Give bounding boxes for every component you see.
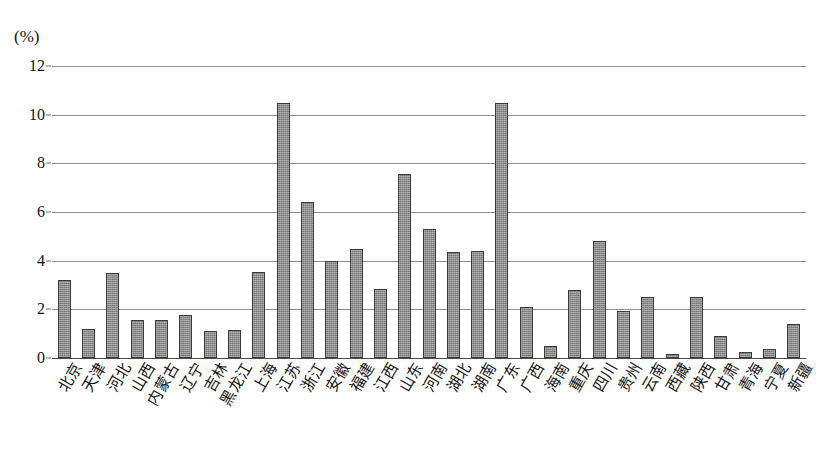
bar bbox=[155, 320, 168, 358]
x-axis-tick-label: 贵州 bbox=[615, 360, 645, 395]
x-axis-label-17: 湖南 bbox=[469, 360, 498, 395]
bar bbox=[520, 307, 533, 358]
y-axis-tick-label: 2 bbox=[37, 301, 45, 317]
x-axis-tick-label: 云南 bbox=[639, 360, 669, 395]
x-axis-label-9: 江苏 bbox=[275, 360, 304, 395]
x-axis-label-1: 天津 bbox=[80, 360, 109, 395]
x-axis-label-25: 西藏 bbox=[664, 360, 693, 395]
bar bbox=[666, 354, 679, 358]
x-axis-tick-label: 广东 bbox=[493, 360, 523, 395]
x-axis-label-11: 安徽 bbox=[323, 360, 352, 395]
x-axis-tick-label: 河南 bbox=[420, 360, 450, 395]
x-axis-label-8: 上海 bbox=[250, 360, 279, 395]
y-axis-tick-label: 6 bbox=[37, 204, 45, 220]
bar bbox=[787, 324, 800, 358]
x-axis-tick-label: 江西 bbox=[371, 360, 401, 395]
x-axis-label-29: 宁夏 bbox=[761, 360, 790, 395]
y-axis-tick-label: 4 bbox=[37, 253, 45, 269]
bar bbox=[131, 320, 144, 358]
bar bbox=[252, 272, 265, 358]
x-axis-label-23: 贵州 bbox=[615, 360, 644, 395]
x-axis-tick-label: 河北 bbox=[104, 360, 134, 395]
bar bbox=[350, 249, 363, 359]
x-axis-tick-label: 青海 bbox=[736, 360, 766, 395]
y-tick-mark-12 bbox=[46, 66, 51, 67]
x-axis-tick-label: 浙江 bbox=[299, 360, 329, 395]
plot-area: 024681012 bbox=[52, 66, 806, 358]
bar bbox=[277, 103, 290, 359]
x-axis-tick-label: 山东 bbox=[396, 360, 426, 395]
x-axis-tick-label: 安徽 bbox=[323, 360, 353, 395]
y-tick-mark-0 bbox=[46, 358, 51, 359]
x-axis-tick-label: 上海 bbox=[250, 360, 280, 395]
x-axis-tick-label: 陕西 bbox=[688, 360, 718, 395]
x-axis-label-15: 河南 bbox=[421, 360, 450, 395]
bar bbox=[423, 229, 436, 358]
x-axis-label-21: 重庆 bbox=[566, 360, 595, 395]
x-axis-tick-label: 西藏 bbox=[663, 360, 693, 395]
bar bbox=[82, 329, 95, 358]
bar bbox=[544, 346, 557, 358]
y-tick-mark-4 bbox=[46, 260, 51, 261]
bar-chart-figure: (%) 024681012 北京天津河北山西内蒙古辽宁吉林黑龙江上海江苏浙江安徽… bbox=[0, 0, 825, 456]
bar bbox=[106, 273, 119, 358]
x-axis-label-19: 广西 bbox=[518, 360, 547, 395]
bar bbox=[398, 174, 411, 358]
x-axis-label-30: 新疆 bbox=[785, 360, 814, 395]
y-tick-mark-6 bbox=[46, 212, 51, 213]
x-axis-tick-label: 重庆 bbox=[566, 360, 596, 395]
x-axis-label-27: 甘肃 bbox=[712, 360, 741, 395]
x-axis-tick-label: 湖南 bbox=[469, 360, 499, 395]
bar bbox=[374, 289, 387, 358]
y-tick-mark-2 bbox=[46, 309, 51, 310]
bar bbox=[641, 297, 654, 358]
bar bbox=[763, 349, 776, 358]
x-axis-label-16: 湖北 bbox=[445, 360, 474, 395]
x-axis-label-5: 辽宁 bbox=[177, 360, 206, 395]
x-axis-tick-label: 宁夏 bbox=[761, 360, 791, 395]
bar bbox=[568, 290, 581, 358]
x-axis-tick-label: 天津 bbox=[80, 360, 110, 395]
x-axis-label-2: 河北 bbox=[104, 360, 133, 395]
x-axis-label-13: 江西 bbox=[372, 360, 401, 395]
x-axis-tick-label: 北京 bbox=[55, 360, 85, 395]
x-axis-label-14: 山东 bbox=[396, 360, 425, 395]
x-axis-label-28: 青海 bbox=[737, 360, 766, 395]
x-axis-tick-label: 广西 bbox=[517, 360, 547, 395]
y-axis-tick-label: 8 bbox=[37, 155, 45, 171]
bar bbox=[228, 330, 241, 358]
x-axis-tick-label: 四川 bbox=[590, 360, 620, 395]
y-axis-tick-label: 10 bbox=[29, 107, 45, 123]
bar bbox=[325, 261, 338, 358]
x-axis-tick-label: 湖北 bbox=[444, 360, 474, 395]
gridline-0 bbox=[52, 358, 806, 359]
x-axis-label-26: 陕西 bbox=[688, 360, 717, 395]
x-axis-label-24: 云南 bbox=[639, 360, 668, 395]
bar bbox=[495, 103, 508, 359]
y-tick-mark-8 bbox=[46, 163, 51, 164]
x-axis-label-18: 广东 bbox=[493, 360, 522, 395]
bar bbox=[447, 252, 460, 358]
bar bbox=[690, 297, 703, 358]
x-axis-label-0: 北京 bbox=[56, 360, 85, 395]
y-tick-mark-10 bbox=[46, 114, 51, 115]
bar bbox=[739, 352, 752, 358]
bar bbox=[471, 251, 484, 358]
x-axis-tick-label: 海南 bbox=[542, 360, 572, 395]
bar bbox=[714, 336, 727, 358]
x-axis-tick-label: 辽宁 bbox=[177, 360, 207, 395]
x-axis-tick-label: 江苏 bbox=[274, 360, 304, 395]
x-axis-label-12: 福建 bbox=[348, 360, 377, 395]
bars-series bbox=[52, 66, 806, 358]
x-axis-tick-label: 新疆 bbox=[785, 360, 815, 395]
x-axis-tick-label: 甘肃 bbox=[712, 360, 742, 395]
x-axis-tick-label: 福建 bbox=[347, 360, 377, 395]
x-axis-label-20: 海南 bbox=[542, 360, 571, 395]
bar bbox=[58, 280, 71, 358]
x-axis-label-10: 浙江 bbox=[299, 360, 328, 395]
y-axis-tick-label: 12 bbox=[29, 58, 45, 74]
bar bbox=[179, 315, 192, 358]
bar bbox=[204, 331, 217, 358]
bar bbox=[617, 311, 630, 358]
y-axis-unit-label: (%) bbox=[14, 27, 39, 46]
